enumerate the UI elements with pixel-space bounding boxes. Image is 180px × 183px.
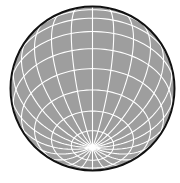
pole-point bbox=[90, 144, 96, 150]
wireframe-globe bbox=[0, 0, 180, 183]
